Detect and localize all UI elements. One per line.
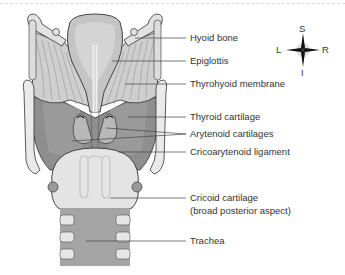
label-trachea: Trachea: [190, 235, 225, 247]
label-cricoarytenoid-ligament: Cricoarytenoid ligament: [190, 146, 290, 158]
compass-left-label: L: [276, 45, 281, 55]
label-thyroid-cartilage: Thyroid cartilage: [190, 111, 260, 123]
label-cricoid-cartilage: Cricoid cartilage: [190, 192, 258, 204]
label-hyoid-bone: Hyoid bone: [190, 32, 238, 44]
compass-inferior-label: I: [301, 68, 304, 78]
label-cricoid-cartilage-sub: (broad posterior aspect): [190, 205, 291, 217]
label-arytenoid-cartilages: Arytenoid cartilages: [190, 128, 273, 140]
cricoid-cartilage-shape: [52, 148, 139, 214]
label-epiglottis: Epiglottis: [190, 55, 229, 67]
larynx-illustration: [0, 0, 345, 275]
compass-right-label: R: [322, 45, 329, 55]
label-thyrohyoid-membrane: Thyrohyoid membrane: [190, 78, 285, 90]
compass-rose-icon: [286, 33, 320, 67]
compass-superior-label: S: [299, 24, 305, 34]
